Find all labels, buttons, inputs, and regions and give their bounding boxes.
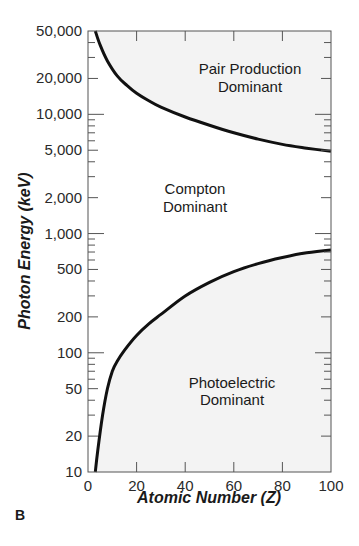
y-tick-label: 10	[65, 463, 82, 480]
y-tick-label: 200	[57, 308, 82, 325]
chart: 1020501002005001,0002,0005,00010,00020,0…	[0, 0, 359, 546]
y-tick-label: 10,000	[36, 105, 82, 122]
region-label-photoelectric-dominant: Dominant	[200, 391, 265, 408]
y-axis-title: Photon Energy (keV)	[16, 172, 33, 329]
y-tick-label: 50	[65, 380, 82, 397]
y-tick-label: 2,000	[44, 189, 82, 206]
region-label-pair-dominant: Dominant	[218, 78, 283, 95]
y-tick-label: 5,000	[44, 141, 82, 158]
y-tick-label: 20	[65, 427, 82, 444]
y-tick-label: 500	[57, 260, 82, 277]
y-tick-label: 1,000	[44, 225, 82, 242]
x-axis-title: Atomic Number (Z)	[136, 489, 281, 506]
x-tick-label: 100	[318, 477, 343, 494]
y-tick-label: 50,000	[36, 22, 82, 39]
y-tick-label: 100	[57, 344, 82, 361]
y-tick-label: 20,000	[36, 69, 82, 86]
region-label-photoelectric: Photoelectric	[189, 374, 276, 391]
panel-label: B	[15, 507, 25, 523]
region-label-compton-dominant: Dominant	[163, 198, 228, 215]
region-label-compton: Compton	[165, 180, 226, 197]
region-label-pair-production: Pair Production	[199, 60, 302, 77]
x-tick-label: 0	[84, 477, 92, 494]
